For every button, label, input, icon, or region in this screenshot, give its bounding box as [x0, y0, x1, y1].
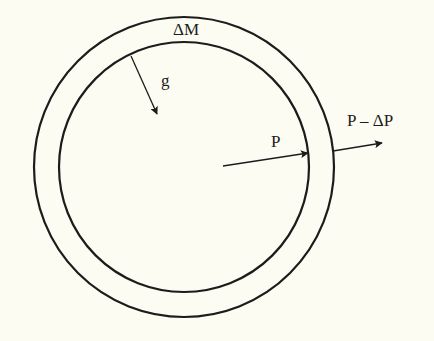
gravity-label: g [161, 71, 170, 90]
gravity-arrow-icon [131, 56, 157, 114]
outer-pressure-arrow-icon [333, 143, 382, 151]
shell-diagram: ΔM g P P – ΔP [0, 0, 434, 341]
outer-pressure-label: P – ΔP [347, 111, 393, 130]
outer-shell-circle [34, 17, 334, 317]
shell-mass-label: ΔM [173, 20, 199, 39]
inner-pressure-arrow-icon [223, 153, 308, 166]
inner-shell-circle [59, 42, 309, 292]
inner-pressure-label: P [271, 132, 280, 151]
